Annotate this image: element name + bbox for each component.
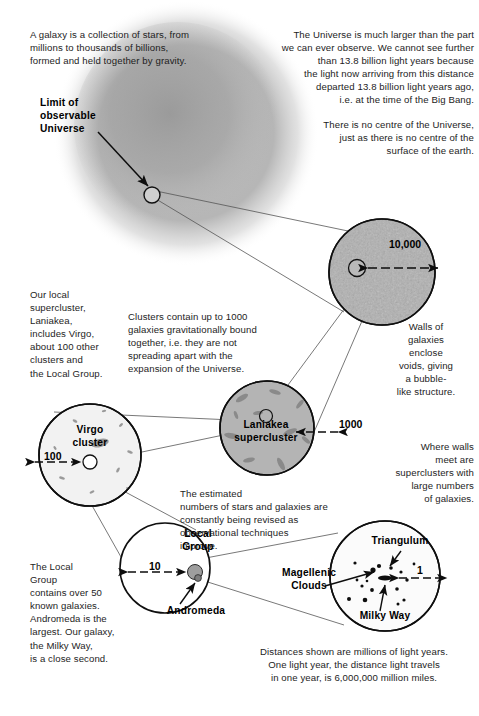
andromeda-pointer [180,583,195,604]
triangulum-pointer [390,551,401,566]
triangulum-label: Triangulum [352,534,448,547]
scale-label-laniakea: 1000 [339,418,362,430]
limit-observable-pointer [98,132,148,186]
scale-label-walls: 10,000 [389,238,421,250]
virgo-cluster-label: Virgo cluster [48,423,132,449]
infographic-canvas: A galaxy is a collection of stars, from … [0,0,479,716]
limit-observable-universe-label: Limit of observable Universe [40,96,150,135]
galaxy-definition-text: A galaxy is a collection of stars, from … [30,28,245,67]
clusters-bound-text: Clusters contain up to 1000 galaxies gra… [128,310,298,375]
andromeda-label: Andromeda [146,604,246,617]
milky-way-label: Milky Way [340,609,430,622]
scale-label-milky-way: 1 [417,564,423,576]
our-position-marker [144,187,160,203]
milky-way-pointer [380,585,385,611]
scale-label-virgo: 100 [44,450,62,462]
distances-note-text: Distances shown are millions of light ye… [234,645,474,684]
no-centre-text: There is no centre of the Universe, just… [254,118,474,157]
milky-way-galaxy-dots [347,561,415,605]
magellenic-clouds-label: Magellenic Clouds [272,566,346,592]
scale-label-local-group: 10 [149,560,161,572]
zoom-cone-universe-to-walls [156,191,348,312]
walls-of-galaxies-text: Walls of galaxies enclose voids, giving … [378,320,474,399]
laniakea-supercluster-label: Laniakea supercluster [212,418,320,444]
local-group-label: Local Group [165,527,231,553]
local-group-info-text: The Local Group contains over 50 known g… [30,560,145,665]
universe-size-text: The Universe is much larger than the par… [234,28,474,107]
walls-of-galaxies-circle [325,215,441,331]
local-supercluster-text: Our local supercluster, Laniakea, includ… [30,288,140,380]
